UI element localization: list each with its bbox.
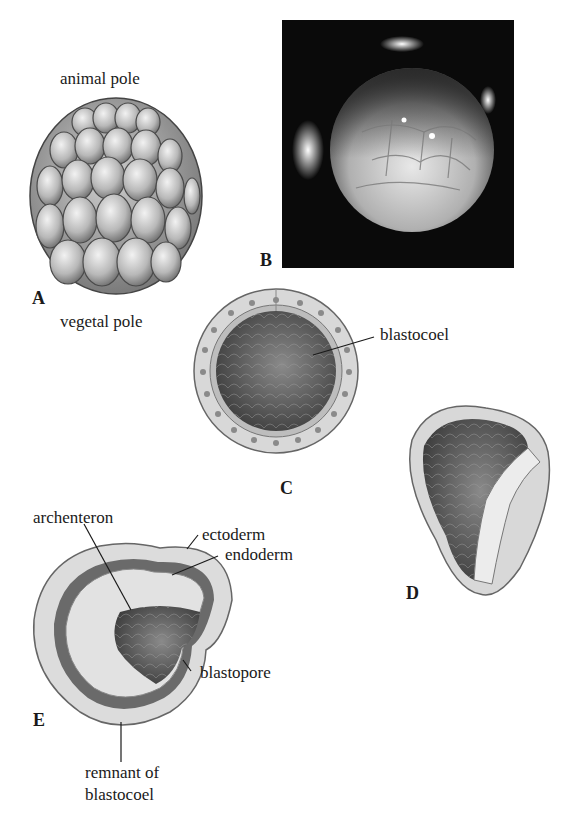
ectoderm-label: ectoderm [202,526,265,545]
endoderm-label: endoderm [225,546,293,565]
panel-letter-c: C [280,478,293,499]
archenteron-label: archenteron [33,509,113,528]
panel-letter-e: E [33,710,45,731]
panel-letter-a: A [32,288,45,309]
animal-pole-label: animal pole [60,70,140,89]
morula-illustration [30,98,202,294]
diagram-artwork [0,0,582,825]
blastula-illustration [194,289,358,453]
invaginating-blastula-illustration [410,406,550,595]
blastopore-label: blastopore [200,664,271,683]
panel-letter-b: B [260,250,272,271]
remnant-label-line1: remnant of [85,764,159,783]
gastrula-illustration [34,543,232,725]
blastocoel-label: blastocoel [380,326,449,345]
embryo-photograph [282,20,514,268]
vegetal-pole-label: vegetal pole [60,313,143,332]
panel-letter-d: D [406,583,419,604]
remnant-label-line2: blastocoel [85,786,154,805]
